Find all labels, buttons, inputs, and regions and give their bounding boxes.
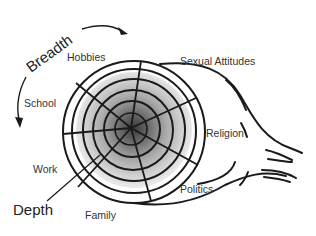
topic-label-politics: Politics bbox=[180, 183, 213, 195]
topic-label-work: Work bbox=[33, 163, 58, 175]
social-penetration-diagram: Breadth Depth Hobbies Sexual Attitudes R… bbox=[0, 0, 316, 236]
breadth-arrowhead-right bbox=[118, 27, 128, 35]
depth-label: Depth bbox=[13, 201, 53, 218]
topic-label-school: School bbox=[24, 97, 56, 109]
topic-label-family: Family bbox=[85, 209, 117, 221]
topic-label-religion: Religion bbox=[206, 127, 244, 139]
breadth-arrowhead-down bbox=[15, 117, 23, 128]
topic-label-hobbies: Hobbies bbox=[67, 51, 106, 63]
topic-label-sexual-attitudes: Sexual Attitudes bbox=[180, 55, 255, 67]
